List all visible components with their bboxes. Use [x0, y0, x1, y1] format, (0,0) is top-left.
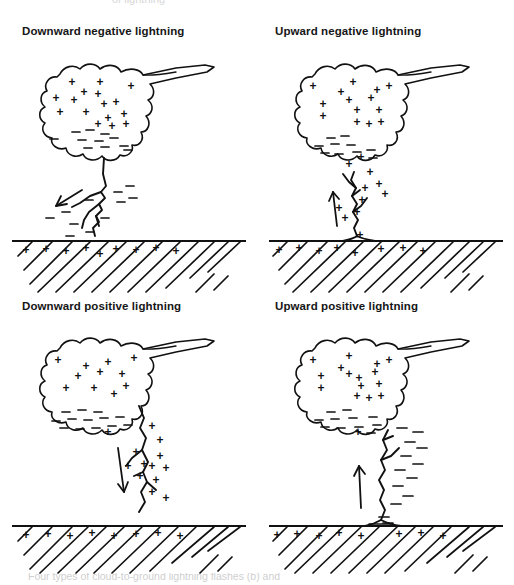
svg-text:+: + — [154, 526, 161, 540]
diagram-downward-positive: ++ ++ ++ + ++ ++ — [0, 314, 257, 574]
svg-text:+: + — [96, 365, 103, 379]
ground: ++ ++ ++ ++ + — [12, 241, 246, 292]
svg-text:+: + — [345, 157, 352, 171]
svg-text:+: + — [337, 85, 344, 99]
panel-downward-positive: Downward positive lightning ++ ++ ++ + +… — [0, 292, 257, 585]
svg-text:+: + — [130, 351, 137, 365]
ground-positive-charges: ++ ++ ++ ++ + — [22, 241, 179, 261]
svg-text:+: + — [108, 119, 115, 133]
svg-text:+: + — [132, 243, 139, 257]
svg-text:+: + — [66, 529, 73, 543]
svg-text:+: + — [110, 387, 117, 401]
ground-positive-charges: ++ ++ ++ ++ — [275, 241, 426, 260]
svg-text:+: + — [365, 391, 372, 405]
svg-text:+: + — [365, 117, 372, 131]
svg-text:+: + — [273, 528, 280, 542]
svg-text:+: + — [315, 529, 322, 543]
svg-text:+: + — [136, 469, 143, 483]
svg-text:+: + — [44, 527, 51, 541]
svg-text:+: + — [22, 528, 29, 542]
svg-text:+: + — [42, 242, 49, 256]
panel-downward-negative: Downward negative lightning ++ ++ + ++ +… — [0, 0, 257, 292]
svg-text:+: + — [337, 361, 344, 375]
channel-branch-b — [343, 174, 356, 188]
svg-text:+: + — [385, 79, 392, 93]
svg-text:+: + — [377, 242, 384, 256]
svg-text:+: + — [295, 241, 302, 255]
channel-positive-charges: ++ ++ ++ ++ ++ ++ — [124, 419, 169, 505]
svg-text:+: + — [22, 243, 29, 257]
svg-text:+: + — [341, 211, 348, 225]
svg-text:+: + — [156, 433, 163, 447]
svg-text:+: + — [54, 353, 61, 367]
svg-text:+: + — [62, 244, 69, 258]
svg-text:+: + — [96, 247, 103, 261]
svg-text:+: + — [417, 526, 424, 540]
svg-text:+: + — [82, 105, 89, 119]
svg-text:+: + — [94, 117, 101, 131]
svg-text:+: + — [52, 91, 59, 105]
svg-text:+: + — [317, 381, 324, 395]
panel-upward-positive: Upward positive lightning ++ ++ + ++ ++ … — [257, 292, 514, 585]
svg-text:+: + — [319, 109, 326, 123]
svg-text:+: + — [351, 246, 358, 260]
cloud-positive-charges: ++ ++ + ++ ++ ++ + ++ + — [309, 349, 392, 405]
svg-text:+: + — [70, 93, 77, 107]
svg-text:+: + — [395, 527, 402, 541]
ground: ++ ++ ++ ++ — [269, 241, 503, 292]
lightning-channel-downward-negative — [93, 158, 106, 236]
cloud-base-positive-charges: + — [354, 425, 361, 439]
svg-text:+: + — [377, 389, 384, 403]
cloud-negative-charges — [50, 130, 132, 150]
direction-arrow-up — [354, 466, 365, 508]
svg-text:+: + — [148, 485, 155, 499]
svg-text:+: + — [366, 165, 373, 179]
svg-text:+: + — [162, 491, 169, 505]
svg-text:+: + — [56, 105, 63, 119]
svg-text:+: + — [148, 459, 155, 473]
svg-text:+: + — [353, 205, 360, 219]
cloud-positive-charges: ++ ++ + ++ ++ ++ ++ ++ + — [52, 75, 134, 133]
lightning-channel-upward-negative — [351, 172, 358, 236]
svg-text:+: + — [315, 244, 322, 258]
panel-title-upward-positive: Upward positive lightning — [275, 300, 418, 312]
cloud-positive-charges: ++ ++ + ++ + ++ + ++ + — [309, 75, 392, 131]
svg-text:+: + — [88, 526, 95, 540]
svg-text:+: + — [333, 241, 340, 255]
svg-text:+: + — [439, 529, 446, 543]
svg-text:+: + — [357, 529, 364, 543]
svg-text:+: + — [68, 75, 75, 89]
svg-text:+: + — [100, 97, 107, 111]
svg-text:+: + — [74, 369, 81, 383]
svg-text:+: + — [132, 527, 139, 541]
panel-upward-negative: Upward negative lightning ++ ++ + ++ + +… — [257, 0, 514, 292]
lightning-types-figure: of lightning Downward negative lightning… — [0, 0, 514, 585]
cloud-base-positive-charges: + — [104, 425, 111, 439]
panel-title-downward-negative: Downward negative lightning — [22, 25, 184, 37]
svg-text:+: + — [176, 529, 183, 543]
svg-text:+: + — [373, 83, 380, 97]
bottom-cropped-caption: Four types of cloud-to-ground lightning … — [0, 573, 514, 585]
ground: ++ ++ ++ ++ — [12, 526, 246, 573]
svg-text:+: + — [82, 359, 89, 373]
svg-text:+: + — [345, 349, 352, 363]
svg-text:+: + — [354, 425, 361, 439]
panel-title-downward-positive: Downward positive lightning — [22, 300, 181, 312]
svg-text:+: + — [385, 353, 392, 367]
svg-text:+: + — [132, 445, 139, 459]
svg-text:+: + — [377, 115, 384, 129]
svg-text:+: + — [419, 244, 426, 258]
ground-positive-charges: ++ ++ ++ ++ — [22, 526, 183, 543]
svg-text:+: + — [293, 527, 300, 541]
svg-text:+: + — [309, 79, 316, 93]
svg-text:+: + — [356, 228, 363, 242]
svg-text:+: + — [110, 529, 117, 543]
svg-text:+: + — [104, 355, 111, 369]
diagram-upward-positive: ++ ++ + ++ ++ ++ + ++ + — [257, 314, 514, 574]
svg-text:+: + — [345, 367, 352, 381]
cloud-negative-charges — [52, 410, 132, 429]
cloud-negative-charges — [315, 410, 381, 433]
panel-title-upward-negative: Upward negative lightning — [275, 25, 421, 37]
svg-text:+: + — [104, 425, 111, 439]
svg-text:+: + — [80, 85, 87, 99]
